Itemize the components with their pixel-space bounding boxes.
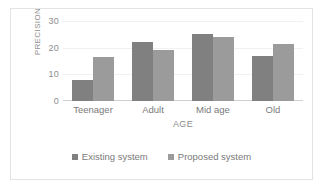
x-category-label: Mid age xyxy=(186,104,240,115)
bar-group-old xyxy=(246,21,300,101)
y-tick-label: 10 xyxy=(49,69,59,79)
bar-proposed-teenager xyxy=(93,57,114,101)
y-tick-label: 20 xyxy=(49,43,59,53)
plot-area xyxy=(63,21,303,101)
x-category-label: Teenager xyxy=(66,104,120,115)
x-category-label: Adult xyxy=(126,104,180,115)
bar-chart-figure: PRECISION 30 20 10 0 xyxy=(10,8,313,180)
bar-existing-teenager xyxy=(72,80,93,101)
legend-swatch-icon xyxy=(168,154,174,160)
legend-swatch-icon xyxy=(72,154,78,160)
chart-legend: Existing system Proposed system xyxy=(11,151,312,162)
bar-proposed-adult xyxy=(153,50,174,101)
bar-proposed-old xyxy=(273,44,294,101)
bar-existing-old xyxy=(252,56,273,101)
legend-label: Proposed system xyxy=(178,151,251,162)
y-axis-tick-labels: 30 20 10 0 xyxy=(29,21,59,101)
bar-group-adult xyxy=(126,21,180,101)
bar-groups xyxy=(63,21,303,101)
legend-item-existing-system: Existing system xyxy=(72,151,148,162)
y-tick-label: 30 xyxy=(49,16,59,26)
bar-existing-mid-age xyxy=(192,34,213,101)
x-axis-title: AGE xyxy=(63,119,303,129)
y-tick-label: 0 xyxy=(54,96,59,106)
bar-proposed-mid-age xyxy=(213,37,234,101)
bar-group-teenager xyxy=(66,21,120,101)
x-category-label: Old xyxy=(246,104,300,115)
x-axis-category-labels: Teenager Adult Mid age Old xyxy=(63,104,303,115)
legend-item-proposed-system: Proposed system xyxy=(168,151,251,162)
legend-label: Existing system xyxy=(82,151,148,162)
bar-group-mid-age xyxy=(186,21,240,101)
bar-existing-adult xyxy=(132,42,153,101)
